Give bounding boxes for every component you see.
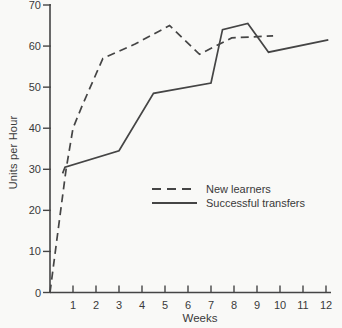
chart-canvas: 010203040506070123456789101112 [0,0,342,328]
y-tick-label: 40 [29,122,41,134]
series-successful-transfers [63,24,329,174]
x-axis-title: Weeks [160,312,240,324]
legend-label: Successful transfers [206,197,305,209]
y-tick-label: 10 [29,245,41,257]
x-tick-label: 7 [208,299,214,311]
legend-label: New learners [206,183,271,195]
legend: New learners Successful transfers [152,183,305,209]
x-tick-label: 10 [274,299,286,311]
y-axis-title: Units per Hour [7,98,20,208]
legend-item: Successful transfers [152,197,305,209]
y-tick-label: 50 [29,81,41,93]
y-tick-label: 60 [29,40,41,52]
x-tick-label: 4 [139,299,145,311]
y-tick-label: 70 [29,0,41,11]
x-tick-label: 6 [185,299,191,311]
x-tick-label: 3 [116,299,122,311]
dashed-line-sample [152,188,197,190]
x-tick-label: 2 [93,299,99,311]
solid-line-sample [152,202,197,204]
series-new-learners [50,26,273,293]
x-tick-label: 12 [320,299,332,311]
y-tick-label: 30 [29,163,41,175]
y-tick-label: 0 [35,287,41,299]
learning-curve-chart: 010203040506070123456789101112 Units per… [0,0,342,328]
x-tick-label: 9 [254,299,260,311]
x-tick-label: 1 [70,299,76,311]
x-tick-label: 5 [162,299,168,311]
legend-item: New learners [152,183,305,195]
y-tick-label: 20 [29,204,41,216]
x-tick-label: 11 [297,299,308,311]
x-tick-label: 8 [231,299,237,311]
